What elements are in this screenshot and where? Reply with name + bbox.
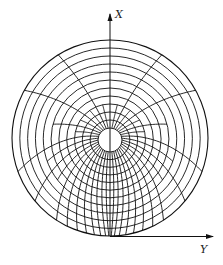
x-axis-label: X <box>115 9 123 20</box>
mesh-spoke <box>103 105 108 128</box>
mesh-spoke <box>106 152 109 236</box>
mesh-spoke <box>102 151 106 235</box>
mesh-spoke <box>112 105 117 128</box>
mesh-diagram <box>0 0 223 265</box>
y-axis-label: Y <box>200 244 207 255</box>
mesh-spoke <box>114 151 118 235</box>
mesh-spoke <box>111 152 114 236</box>
mesh-spoke <box>121 145 153 226</box>
mesh-spoke <box>67 145 99 226</box>
mesh-spoke <box>121 132 145 135</box>
mesh-spoke <box>75 132 99 135</box>
